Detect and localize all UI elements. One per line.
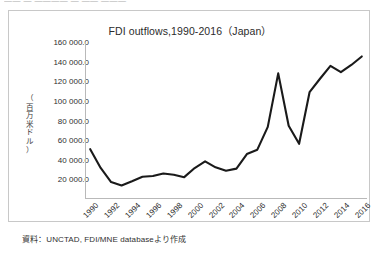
x-axis-tick-label: 2014 [332,201,351,220]
y-axis-tick-label: 60 000.0 [31,136,89,145]
x-axis-tick-label: 1998 [165,201,184,220]
line-chart-svg [85,42,367,199]
x-axis-tick-label: 1990 [82,201,101,220]
y-axis-tick-label: 160 000.0 [31,38,89,47]
y-axis-tick-label: 140 000.0 [31,57,89,66]
y-axis-tick-label: 120 000.0 [31,77,89,86]
x-axis-tick-label: 2012 [311,201,330,220]
y-axis-tick-label: 40 000.0 [31,155,89,164]
x-axis-tick-label: 2000 [186,201,205,220]
plot-area [85,42,367,199]
x-axis-tick-label: 1994 [123,201,142,220]
x-axis-tick-label: 2004 [228,201,247,220]
x-axis-tick-label: 2016 [353,201,372,220]
x-axis-tick-label: 1992 [103,201,122,220]
y-axis-tick-label: 20 000.0 [31,175,89,184]
y-axis-tick-labels: 160 000.0140 000.0120 000.0100 000.080 0… [31,11,89,223]
x-axis-tick-labels: 1990199219941996199820002002200420062008… [85,201,367,235]
x-axis-tick-label: 2006 [249,201,268,220]
x-axis-tick-label: 2002 [207,201,226,220]
x-axis-tick-label: 2010 [291,201,310,220]
cut-off-top-text-strip: —— — ———— — —— ——— [0,0,385,9]
y-axis-tick-label: 100 000.0 [31,96,89,105]
cut-off-top-text: —— — ———— — —— ——— [4,0,126,5]
x-axis-tick-label: 2008 [270,201,289,220]
screenshot-root: —— — ———— — —— ——— FDI outflows,1990-201… [0,0,385,257]
y-axis-tick-label: 80 000.0 [31,116,89,125]
data-series-line [90,56,362,185]
figure-frame: FDI outflows,1990-2016（Japan） （百万米ドル） 16… [8,10,370,222]
x-axis-tick-label: 1996 [144,201,163,220]
source-note: 資料：UNCTAD, FDI/MNE databaseより作成 [22,233,186,244]
